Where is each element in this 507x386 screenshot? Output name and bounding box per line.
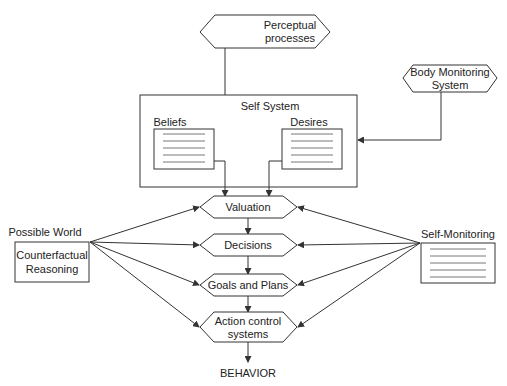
self-monitoring-to-goals-arrow: [298, 243, 420, 285]
perceptual-label-line1: Perceptual: [264, 19, 317, 31]
body-monitoring-node: Body Monitoring System: [403, 65, 497, 92]
action-control-label-line1: Action control: [215, 315, 282, 327]
body-monitoring-to-self-arrow: [358, 92, 441, 140]
possible-world-to-action-arrow: [90, 242, 199, 327]
counterfactual-label-line1: Counterfactual: [16, 249, 88, 261]
self-monitoring-document-icon: [421, 243, 495, 283]
possible-world-to-valuation-arrow: [90, 207, 199, 242]
goals-plans-node: Goals and Plans: [200, 274, 297, 296]
possible-world-to-goals-arrow: [90, 242, 199, 285]
self-monitoring-to-decisions-arrow: [298, 243, 420, 245]
beliefs-label: Beliefs: [153, 116, 187, 128]
decisions-node: Decisions: [200, 234, 297, 256]
desires-document-icon: [282, 129, 342, 169]
action-control-node: Action control systems: [200, 312, 297, 342]
counterfactual-label-line2: Reasoning: [26, 263, 79, 275]
possible-world-to-decisions-arrow: [90, 242, 199, 245]
self-monitoring-node: Self-Monitoring: [421, 228, 495, 283]
decisions-label: Decisions: [224, 239, 272, 251]
self-system-box: Self System Beliefs Desires: [140, 95, 357, 187]
action-control-label-line2: systems: [228, 328, 269, 340]
possible-world-node: Possible World Counterfactual Reasoning: [8, 226, 89, 282]
beliefs-document-icon: [154, 129, 214, 169]
self-monitoring-to-action-arrow: [298, 243, 420, 327]
perceptual-label-line2: processes: [265, 32, 316, 44]
behavior-label: BEHAVIOR: [220, 367, 276, 379]
self-monitoring-to-valuation-arrow: [298, 207, 420, 243]
valuation-node: Valuation: [200, 196, 297, 218]
possible-world-title: Possible World: [8, 226, 81, 238]
cognitive-architecture-diagram: Perceptual processes Self System Beliefs…: [0, 0, 507, 386]
body-monitoring-label-line1: Body Monitoring: [410, 66, 490, 78]
self-system-title: Self System: [241, 100, 300, 112]
perceptual-processes-node: Perceptual processes: [200, 15, 330, 48]
valuation-label: Valuation: [225, 201, 270, 213]
desires-label: Desires: [290, 116, 328, 128]
body-monitoring-label-line2: System: [432, 79, 469, 91]
goals-plans-label: Goals and Plans: [208, 279, 289, 291]
self-monitoring-title: Self-Monitoring: [421, 228, 495, 240]
